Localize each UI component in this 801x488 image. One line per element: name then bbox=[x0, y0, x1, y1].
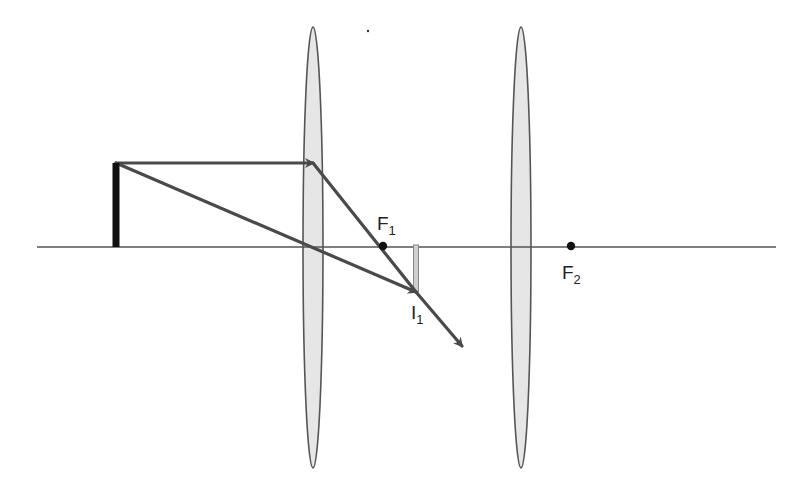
stray-dot bbox=[367, 30, 369, 32]
f2-subscript: 2 bbox=[574, 272, 581, 287]
image-arrow bbox=[414, 245, 419, 292]
stray-mark bbox=[367, 30, 369, 32]
focal-points bbox=[379, 242, 575, 250]
focal-point-label-f1: F1 bbox=[377, 214, 396, 237]
image-bar bbox=[414, 245, 419, 292]
focal-point-f2 bbox=[567, 242, 575, 250]
f1-subscript: 1 bbox=[389, 223, 396, 238]
object-arrow bbox=[113, 163, 120, 247]
f1-letter: F bbox=[377, 213, 389, 234]
central-ray bbox=[116, 163, 416, 292]
i1-subscript: 1 bbox=[416, 312, 423, 327]
ray-diagram-canvas bbox=[0, 0, 801, 488]
ray-diagram: F1 F2 I1 bbox=[0, 0, 801, 488]
object-bar bbox=[113, 163, 120, 247]
f2-letter: F bbox=[562, 262, 574, 283]
parallel-ray-refracted bbox=[313, 163, 416, 292]
image-label-i1: I1 bbox=[411, 303, 424, 326]
focal-point-label-f2: F2 bbox=[562, 263, 581, 286]
focal-point-f1 bbox=[379, 242, 387, 250]
